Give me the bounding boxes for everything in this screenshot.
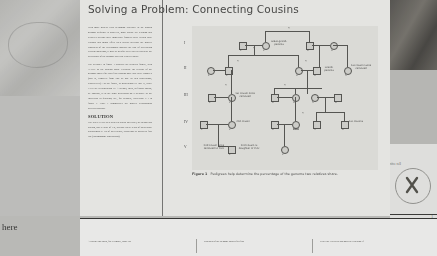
descent-line [284,124,285,146]
label-first-cousins: 1st cousins [348,120,364,123]
pedigree-figure: 1 2 ½ Great-grand-parents 4 3 ½ 1 2 3 4 … [192,26,378,170]
individual-number: 1 [209,101,211,104]
descent-line [309,31,310,42]
label-first-cousin-once-removed: 1st cousin once removed [235,92,255,98]
half-fraction: ½ [288,27,290,30]
decorative-photo-right [390,0,437,70]
descent-line [231,70,232,94]
half-fraction: ½ [302,112,304,115]
column-rule [162,0,163,216]
generation-label-iii: III [184,93,188,97]
individual-number: 2 [282,153,284,156]
label-second-cousin: 2nd cousin [235,120,251,123]
mating-line [312,45,330,46]
half-fraction: ½ [237,60,239,63]
label-grandparents: Grand-parents [320,66,338,72]
individual-number: 4 [331,49,333,52]
label-great-grandparents: Great-grand-parents [270,40,288,46]
individual-number: 6 [335,101,337,104]
chromosome-circle [395,168,431,204]
descent-line [319,45,320,67]
individual-number: 5 [345,74,347,77]
solution-paragraph: The rules: Every step between parent and… [88,121,152,141]
page-background-right-grey [390,70,437,144]
sibling-bar [333,45,347,46]
descent-line [228,55,229,67]
chromosome-illustration: ctive cell [395,168,431,204]
next-page [80,218,437,256]
individual-number: 1 [208,74,210,77]
page-background-left [0,0,80,216]
descent-line [325,97,326,112]
descent-line [298,55,299,67]
individual-number: 3 [272,128,274,131]
mating-line [277,97,292,98]
page-edge-rule [80,218,437,219]
bottom-column-2: centages of the genome shared for first [204,240,304,245]
descent-line [295,97,296,121]
page-title: Solving a Problem: Connecting Cousins [88,3,338,15]
descent-line [265,31,266,42]
bottom-column-3: ed by the expected phenotypic variation … [320,240,425,245]
descent-line [218,124,219,146]
decorative-photo-left [0,0,80,96]
generation-label-v: V [184,145,187,149]
individual-number: 1 [201,128,203,131]
margin-rule [390,214,437,215]
descent-line [347,45,348,67]
individual-number: 4 [314,74,316,77]
figure-number: Figure 1 [192,172,207,176]
generation-label-ii: II [184,66,186,70]
individual-number: 3 [307,49,309,52]
individual-number: 1 [240,49,242,52]
individual-number: 3 [272,101,274,104]
individual-number: 6 [342,128,344,131]
article-page: Solving a Problem: Connecting Cousins Wi… [80,0,390,216]
half-fraction: ½ [225,84,227,87]
half-fraction: ½ [305,60,307,63]
label-second-cousin-once-removed: 2nd cousin once removed to YOU [196,144,224,150]
figure-caption-text: Pedigrees help determine the percentage … [211,172,338,176]
bottom-column-divider [196,239,197,253]
label-first-cousin-twice-removed: 1st cousin twice removed [350,64,372,70]
sibling-bar [274,88,322,89]
bottom-column-1: A parent and child, for example, share 5… [88,240,188,245]
half-fraction: ½ [284,84,286,87]
descent-line [344,112,345,121]
sibling-bar [316,112,344,113]
bottom-column-divider [312,239,313,253]
mating-line [206,124,228,125]
individual-number: 3 [296,74,298,77]
left-margin-fragment: here [2,222,18,232]
body-text-column: With more genetic tests becoming availab… [88,26,152,143]
mating-line [213,70,225,71]
individual-number: 2 [229,128,231,131]
label-second-cousin-daughter: 2nd cousin is daughter of YOU [236,144,262,150]
generation-label-iv: IV [184,120,188,124]
descent-line [316,112,317,121]
descent-line [231,97,232,121]
descent-line [254,45,255,55]
mating-line [214,97,228,98]
label-you: YOU [290,128,302,131]
individual-number: 5 [312,101,314,104]
page-background-left-lower [0,96,80,216]
paragraph: The pedigree in figure 1 displays an ext… [88,63,152,112]
generation-label-i: I [184,41,185,45]
sibling-bar [228,55,298,56]
individual-number: 2 [226,74,228,77]
paragraph: With more genetic tests becoming availab… [88,26,152,60]
chromosome-caption: ctive cell [389,162,401,166]
figure-caption: Figure 1 Pedigrees help determine the pe… [192,172,392,176]
sibling-bar [265,31,309,32]
individual-number: 2 [263,49,265,52]
individual-number: 5 [314,128,316,131]
individual-number: 1 [229,153,231,156]
descent-line [307,70,308,94]
solution-heading: SOLUTION [88,114,152,119]
